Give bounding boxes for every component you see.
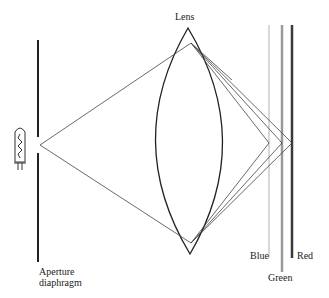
red-label: Red xyxy=(297,250,313,261)
chromatic-aberration-diagram: Lens Aperture diaphragm Blue Green Red xyxy=(0,0,329,298)
aperture-label-line2: diaphragm xyxy=(39,277,82,288)
lens-label: Lens xyxy=(175,11,194,22)
green-label: Green xyxy=(268,272,292,283)
light-bulb-icon xyxy=(14,128,26,170)
blue-label: Blue xyxy=(250,250,269,261)
light-rays xyxy=(40,43,292,243)
diagram-drawing xyxy=(0,0,329,298)
aperture-label-line1: Aperture xyxy=(39,266,75,277)
